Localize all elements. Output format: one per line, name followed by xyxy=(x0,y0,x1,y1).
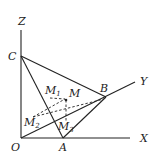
diagram: Z C B Y M M1 M2 M3 O A X xyxy=(0,0,157,168)
edge-CB xyxy=(21,56,106,97)
label-Y: Y xyxy=(140,75,149,88)
label-M1: M1 xyxy=(44,84,61,98)
label-A: A xyxy=(58,141,67,154)
dashed-M1-M xyxy=(50,98,65,99)
point-M xyxy=(65,99,68,102)
label-M: M xyxy=(68,87,81,100)
label-M2: M2 xyxy=(23,116,40,130)
dashed-M2-M xyxy=(33,99,65,117)
label-C: C xyxy=(8,50,17,63)
label-B: B xyxy=(99,82,108,95)
label-X: X xyxy=(139,132,149,145)
coordinate-diagram: Z C B Y M M1 M2 M3 O A X xyxy=(0,0,157,168)
label-Z: Z xyxy=(17,15,26,28)
label-O: O xyxy=(11,141,20,154)
label-M3: M3 xyxy=(57,120,74,134)
